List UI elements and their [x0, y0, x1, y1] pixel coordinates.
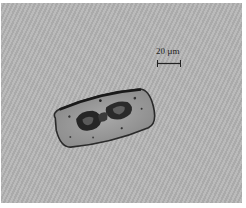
cell-specimen [49, 88, 161, 150]
scale-bar [157, 60, 181, 67]
scale-bar-label: 20 µm [156, 46, 190, 56]
micrograph: 20 µm [1, 3, 242, 203]
scale-bar-group: 20 µm [155, 46, 185, 74]
